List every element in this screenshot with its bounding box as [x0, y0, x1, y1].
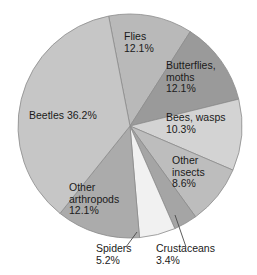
slice-label-butterflies-moths: Butterflies, moths 12.1% — [166, 60, 216, 95]
slice-label-other-insects: Other insects 8.6% — [172, 155, 205, 190]
slice-label-spiders-name: Spiders — [96, 243, 132, 255]
slice-label-beetles-text: Beetles 36.2% — [29, 110, 97, 122]
slice-label-other-insects-value: 8.6% — [172, 178, 205, 190]
slice-label-bees-name: Bees, wasps — [166, 112, 226, 124]
slice-label-flies-name: Flies — [124, 31, 154, 43]
slice-label-bees-value: 10.3% — [166, 124, 226, 136]
slice-label-other-arthropods-value: 12.1% — [69, 205, 119, 217]
slice-label-flies: Flies 12.1% — [124, 31, 154, 54]
slice-label-butterflies-name-1: Butterflies, — [166, 60, 216, 72]
slice-label-crustaceans-name: Crustaceans — [156, 243, 215, 255]
slice-label-bees-wasps: Bees, wasps 10.3% — [166, 112, 226, 135]
slice-label-crustaceans-value: 3.4% — [156, 255, 215, 267]
slice-label-spiders: Spiders 5.2% — [96, 243, 132, 266]
slice-label-other-insects-name-1: Other — [172, 155, 205, 167]
slice-label-crustaceans: Crustaceans 3.4% — [156, 243, 215, 266]
slice-label-other-arthropods-name-1: Other — [69, 182, 119, 194]
slice-label-flies-value: 12.1% — [124, 43, 154, 55]
slice-label-beetles: Beetles 36.2% — [29, 110, 97, 122]
slice-label-spiders-value: 5.2% — [96, 255, 132, 267]
slice-label-other-arthropods: Other arthropods 12.1% — [69, 182, 119, 217]
pie-chart: Flies 12.1% Butterflies, moths 12.1% Bee… — [0, 0, 257, 275]
slice-label-butterflies-value: 12.1% — [166, 83, 216, 95]
